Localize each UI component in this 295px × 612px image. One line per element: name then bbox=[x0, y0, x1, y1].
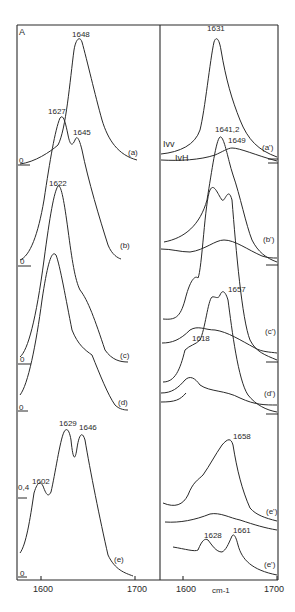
peak-label-1646: 1646 bbox=[79, 423, 97, 432]
spectra-figure: A 1648 1627 1645 1622 1602 1629 1646 (a)… bbox=[0, 0, 295, 612]
zero-label-a: 0 bbox=[19, 156, 24, 165]
curve-e-prime bbox=[173, 535, 277, 575]
curve-label-b: (b) bbox=[120, 241, 130, 250]
curve-label-d: (d) bbox=[118, 398, 128, 407]
legend-ivv: Ivv bbox=[163, 139, 175, 149]
curve-c-prime-ivh bbox=[162, 328, 277, 353]
peak-label-1627: 1627 bbox=[48, 107, 66, 116]
curve-d bbox=[20, 254, 128, 410]
curve-label-e-double-prime: (e') bbox=[266, 507, 278, 516]
peak-label-1631: 1631 bbox=[207, 24, 225, 33]
peak-label-1622: 1622 bbox=[49, 179, 67, 188]
peak-label-1645: 1645 bbox=[73, 128, 91, 137]
zero-label-d: 0 bbox=[19, 403, 24, 412]
curve-c-prime bbox=[163, 187, 277, 360]
curve-label-a-prime: (a') bbox=[262, 143, 274, 152]
peak-label-1648: 1648 bbox=[72, 30, 90, 39]
peak-label-1618: 1618 bbox=[192, 334, 210, 343]
curve-e-double-prime bbox=[163, 440, 277, 521]
curve-label-d-prime: (d') bbox=[264, 389, 276, 398]
x-tick-1700-left: 1700 bbox=[127, 584, 147, 594]
peak-label-1658: 1658 bbox=[233, 432, 251, 441]
right-panel-frame bbox=[152, 25, 278, 580]
x-tick-1600-left: 1600 bbox=[33, 584, 53, 594]
zero-label-b: 0 bbox=[20, 257, 25, 266]
curve-label-c-prime: (c') bbox=[265, 327, 276, 336]
curve-a bbox=[20, 39, 137, 164]
peak-label-1628: 1628 bbox=[204, 531, 222, 540]
zero-label-c: 0 bbox=[20, 355, 25, 364]
curve-label-b-prime: (b') bbox=[263, 235, 275, 244]
x-tick-1700-right: 1700 bbox=[264, 584, 284, 594]
curve-d-prime-ivh bbox=[161, 378, 277, 405]
curve-b bbox=[20, 117, 121, 260]
curve-label-a: (a) bbox=[128, 148, 138, 157]
scale-label-04: 0,4 bbox=[18, 483, 30, 492]
curve-b-prime-ivh bbox=[161, 240, 277, 258]
curve-label-e-prime: (e') bbox=[264, 560, 276, 569]
x-axis-unit: cm-1 bbox=[212, 586, 230, 595]
curve-label-e: (e) bbox=[114, 555, 124, 564]
x-tick-1600-right: 1600 bbox=[176, 584, 196, 594]
peak-label-1602: 1602 bbox=[32, 477, 50, 486]
peak-label-1661: 1661 bbox=[233, 526, 251, 535]
peak-label-1657: 1657 bbox=[228, 285, 246, 294]
zero-label-e: 0 bbox=[20, 569, 25, 578]
peak-label-1649: 1649 bbox=[228, 136, 246, 145]
curve-label-c: (c) bbox=[120, 351, 130, 360]
axis-label-absorbance: A bbox=[19, 27, 25, 37]
curve-d-prime-low bbox=[161, 393, 186, 402]
legend-ivh: IvH bbox=[175, 153, 189, 163]
peak-label-1641-2: 1641,2 bbox=[215, 125, 240, 134]
peak-label-1629: 1629 bbox=[59, 419, 77, 428]
